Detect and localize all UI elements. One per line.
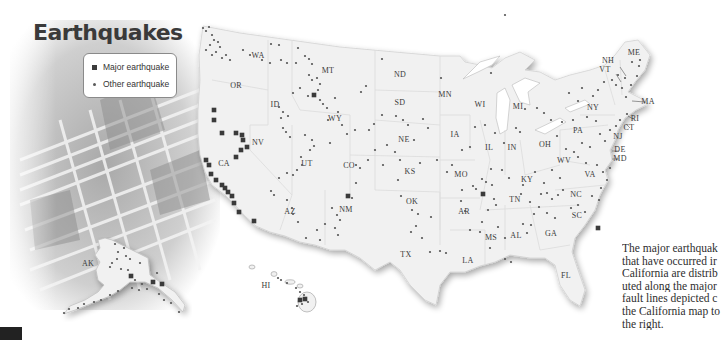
major-earthquake-marker <box>232 201 237 206</box>
other-earthquake-dot <box>603 81 605 83</box>
other-earthquake-dot <box>561 121 563 123</box>
other-earthquake-dot <box>304 134 306 136</box>
other-earthquake-dot <box>337 111 339 113</box>
caption-line: the California map to <box>622 305 725 318</box>
other-earthquake-dot <box>277 277 279 279</box>
state-label-nj: NJ <box>613 132 623 141</box>
other-earthquake-dot <box>295 62 297 64</box>
other-earthquake-dot <box>436 159 438 161</box>
other-earthquake-dot <box>215 51 217 53</box>
other-earthquake-dot <box>572 119 574 121</box>
major-earthquake-marker <box>303 297 308 302</box>
other-earthquake-dot <box>109 266 111 268</box>
other-earthquake-dot <box>497 226 499 228</box>
other-earthquake-dot <box>299 87 301 89</box>
other-earthquake-dot <box>491 184 493 186</box>
other-earthquake-dot <box>170 302 172 304</box>
other-earthquake-dot <box>611 79 613 81</box>
other-earthquake-dot <box>609 167 611 169</box>
other-earthquake-dot <box>286 172 288 174</box>
other-earthquake-dot <box>286 199 288 201</box>
other-earthquake-dot <box>446 171 448 173</box>
other-earthquake-dot <box>359 167 361 169</box>
other-earthquake-dot <box>522 223 524 225</box>
other-earthquake-dot <box>489 247 491 249</box>
major-earthquake-marker <box>209 172 214 177</box>
other-earthquake-dot <box>209 44 211 46</box>
other-earthquake-dot <box>368 129 370 131</box>
other-earthquake-dot <box>464 210 466 212</box>
state-label-ky: KY <box>521 175 533 184</box>
other-earthquake-dot <box>211 34 213 36</box>
other-earthquake-dot <box>208 26 210 28</box>
other-earthquake-dot <box>551 169 553 171</box>
other-earthquake-dot <box>291 207 293 209</box>
other-earthquake-dot <box>93 301 95 303</box>
major-earthquake-marker <box>481 192 486 197</box>
other-earthquake-dot <box>225 54 227 56</box>
other-earthquake-dot <box>602 171 604 173</box>
state-label-nv: NV <box>252 138 264 147</box>
other-earthquake-dot <box>285 131 287 133</box>
other-earthquake-dot <box>495 204 497 206</box>
other-earthquake-dot <box>487 209 489 211</box>
other-earthquake-dot <box>286 62 288 64</box>
other-earthquake-dot <box>304 55 306 57</box>
other-earthquake-dot <box>311 63 313 65</box>
other-earthquake-dot <box>123 247 125 249</box>
other-earthquake-dot <box>116 258 118 260</box>
other-earthquake-dot <box>415 225 417 227</box>
other-earthquake-dot <box>100 299 102 301</box>
other-earthquake-dot <box>242 49 244 51</box>
other-earthquake-dot <box>289 136 291 138</box>
other-earthquake-dot <box>300 156 302 158</box>
other-earthquake-dot <box>301 164 303 166</box>
other-earthquake-dot <box>551 198 553 200</box>
state-label-nc: NC <box>570 190 582 199</box>
other-earthquake-dot <box>292 92 294 94</box>
other-earthquake-dot <box>475 188 477 190</box>
other-earthquake-dot <box>156 272 158 274</box>
other-earthquake-dot <box>451 164 453 166</box>
map-legend: Major earthquake Other earthquake <box>83 53 177 98</box>
other-earthquake-dot <box>331 207 333 209</box>
other-earthquake-dot <box>522 184 524 186</box>
state-label-ia: IA <box>450 130 459 139</box>
other-earthquake-dot <box>139 262 141 264</box>
state-label-sd: SD <box>395 98 406 107</box>
legend-item-other: Other earthquake <box>92 79 169 89</box>
other-earthquake-dot <box>421 237 423 239</box>
other-earthquake-dot <box>339 219 341 221</box>
other-earthquake-dot <box>213 39 215 41</box>
state-label-wi: WI <box>475 100 486 109</box>
caption-line: the right. <box>622 318 725 331</box>
other-earthquake-dot <box>316 229 318 231</box>
other-earthquake-dot <box>570 207 572 209</box>
state-label-mi: MI <box>513 102 523 111</box>
other-earthquake-dot <box>481 221 483 223</box>
other-earthquake-dot <box>504 237 506 239</box>
other-earthquake-dot <box>630 84 632 86</box>
other-earthquake-dot <box>341 124 343 126</box>
major-earthquake-marker <box>230 194 235 199</box>
other-earthquake-dot <box>407 124 409 126</box>
other-earthquake-dot <box>163 299 165 301</box>
other-earthquake-dot <box>557 194 559 196</box>
other-earthquake-dot <box>280 59 282 61</box>
other-earthquake-dot <box>286 282 288 284</box>
other-earthquake-dot <box>526 232 528 234</box>
other-earthquake-dot <box>282 111 284 113</box>
state-label-ks: KS <box>405 167 416 176</box>
other-earthquake-dot <box>138 289 140 291</box>
other-earthquake-dot <box>474 126 476 128</box>
other-earthquake-dot <box>584 211 586 213</box>
other-earthquake-dot <box>282 127 284 129</box>
state-label-mt: MT <box>322 66 335 75</box>
other-earthquake-dot <box>577 204 579 206</box>
major-earthquake-marker <box>226 190 231 195</box>
major-earthquake-marker <box>241 138 246 143</box>
caption-line: that have occurred ir <box>622 255 725 268</box>
other-earthquake-dot <box>158 293 160 295</box>
state-label-ny: NY <box>587 103 599 112</box>
other-earthquake-dot <box>565 148 567 150</box>
